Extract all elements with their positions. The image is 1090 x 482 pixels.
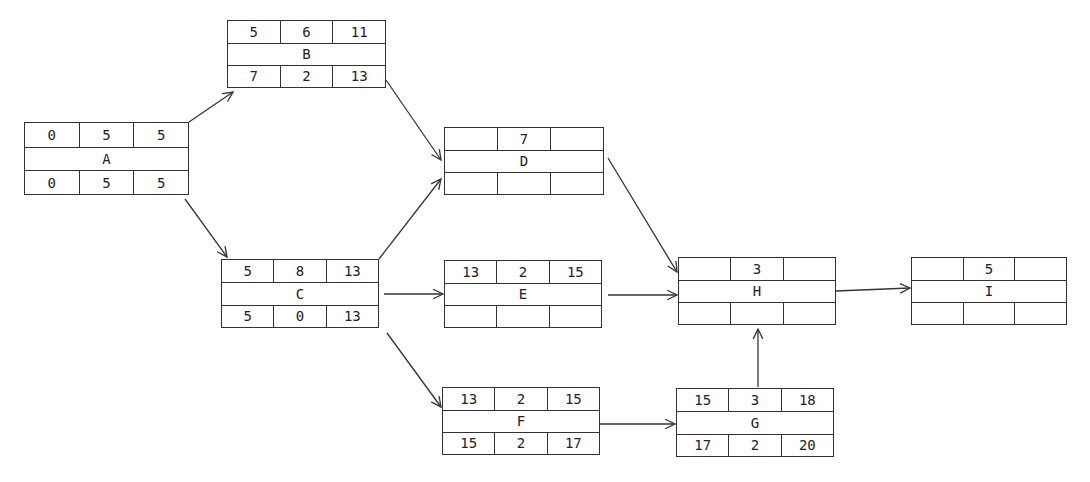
late-start (679, 303, 730, 324)
node-top-row: 5 8 13 (222, 260, 378, 282)
arrow-E-H (608, 290, 677, 300)
activity-name: G (677, 412, 833, 433)
late-finish (1014, 303, 1066, 324)
network-diagram: 0 5 5 A 0 5 5 5 6 11 B 7 2 13 5 8 (0, 0, 1090, 482)
late-finish (550, 173, 603, 194)
node-name-row: E (445, 283, 601, 305)
arrow-A-C (185, 199, 227, 257)
activity-name: B (228, 44, 385, 65)
node-top-row: 13 2 15 (443, 388, 599, 410)
node-I: 5 I (911, 257, 1067, 325)
duration: 2 (494, 388, 546, 410)
early-start (912, 258, 963, 280)
total-float (496, 306, 548, 327)
node-B: 5 6 11 B 7 2 13 (227, 20, 386, 88)
activity-name: H (679, 281, 835, 302)
late-start: 0 (25, 171, 79, 194)
node-top-row: 5 (912, 258, 1066, 280)
node-bottom-row (679, 302, 835, 324)
node-top-row: 13 2 15 (445, 261, 601, 283)
late-start (912, 303, 963, 324)
node-bottom-row (445, 172, 603, 194)
node-top-row: 3 (679, 258, 835, 280)
early-finish (550, 128, 603, 150)
early-start: 0 (25, 123, 79, 147)
duration: 5 (79, 123, 134, 147)
duration: 7 (497, 128, 550, 150)
early-finish: 11 (332, 21, 385, 43)
node-bottom-row: 0 5 5 (25, 170, 188, 194)
early-start: 5 (222, 260, 273, 282)
activity-name: D (445, 151, 603, 172)
node-A: 0 5 5 A 0 5 5 (24, 122, 189, 195)
late-start (445, 306, 496, 327)
arrow-C-D (379, 179, 441, 259)
node-bottom-row: 7 2 13 (228, 65, 385, 87)
duration: 3 (730, 258, 782, 280)
node-top-row: 15 3 18 (677, 389, 833, 411)
early-finish: 15 (549, 261, 601, 283)
activity-name: E (445, 284, 601, 305)
late-finish: 13 (326, 306, 378, 327)
late-start (445, 173, 497, 194)
early-finish: 13 (326, 260, 378, 282)
early-finish (783, 258, 835, 280)
node-bottom-row: 17 2 20 (677, 434, 833, 456)
node-name-row: G (677, 411, 833, 433)
duration: 2 (496, 261, 548, 283)
arrow-C-E (384, 289, 443, 299)
early-start: 15 (677, 389, 728, 411)
arrow-H-I (836, 284, 910, 294)
total-float (963, 303, 1015, 324)
duration: 5 (963, 258, 1015, 280)
late-start: 15 (443, 433, 494, 454)
early-finish (1014, 258, 1066, 280)
node-name-row: I (912, 280, 1066, 302)
late-finish: 13 (332, 66, 385, 87)
total-float: 2 (280, 66, 333, 87)
node-name-row: C (222, 282, 378, 304)
late-finish (783, 303, 835, 324)
early-start (679, 258, 730, 280)
node-H: 3 H (678, 257, 836, 325)
late-start: 17 (677, 435, 728, 456)
activity-name: C (222, 283, 378, 304)
total-float: 0 (273, 306, 325, 327)
node-G: 15 3 18 G 17 2 20 (676, 388, 834, 457)
node-name-row: A (25, 147, 188, 171)
arrow-C-F (387, 333, 441, 407)
arrow-D-H (608, 158, 677, 272)
early-start: 5 (228, 21, 280, 43)
node-name-row: H (679, 280, 835, 302)
late-finish: 20 (781, 435, 833, 456)
node-bottom-row: 15 2 17 (443, 432, 599, 454)
early-finish: 15 (547, 388, 599, 410)
arrowhead-icon (668, 261, 677, 272)
arrow-G-H (753, 329, 763, 387)
arrow-F-G (600, 419, 675, 429)
node-name-row: B (228, 43, 385, 65)
node-top-row: 0 5 5 (25, 123, 188, 147)
total-float: 5 (79, 171, 134, 194)
duration: 6 (280, 21, 333, 43)
duration: 3 (728, 389, 780, 411)
early-start: 13 (445, 261, 496, 283)
arrow-B-D (386, 80, 441, 160)
late-finish (549, 306, 601, 327)
node-D: 7 D (444, 127, 604, 195)
late-finish: 17 (547, 433, 599, 454)
node-bottom-row: 5 0 13 (222, 305, 378, 327)
early-start (445, 128, 497, 150)
total-float: 2 (728, 435, 780, 456)
node-E: 13 2 15 E (444, 260, 602, 328)
total-float (497, 173, 550, 194)
early-finish: 18 (781, 389, 833, 411)
activity-name: I (912, 281, 1066, 302)
duration: 8 (273, 260, 325, 282)
late-start: 7 (228, 66, 280, 87)
activity-name: A (25, 148, 188, 171)
node-C: 5 8 13 C 5 0 13 (221, 259, 379, 328)
activity-name: F (443, 411, 599, 432)
total-float: 2 (494, 433, 546, 454)
late-start: 5 (222, 306, 273, 327)
